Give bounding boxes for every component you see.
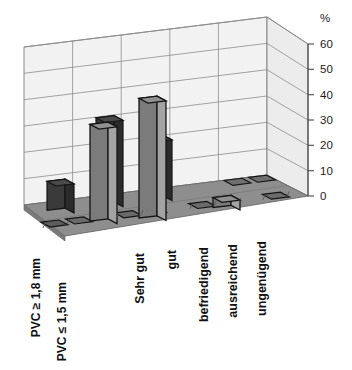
y-tick-40: 40: [320, 89, 333, 101]
right-wall: [267, 17, 308, 196]
category-label-gut: gut: [165, 249, 179, 269]
bar-back-sehr-gut: [47, 179, 74, 213]
y-tick-20: 20: [320, 139, 333, 151]
series-axis-labels: PVC ≥ 1,8 mm PVC ≤ 1,5 mm: [29, 258, 69, 361]
category-label-ausreichend: ausreichend: [226, 244, 240, 318]
series-label-pvc-ge-18: PVC ≥ 1,8 mm: [29, 258, 43, 337]
bar-chart-3d: % 60 50 40 30 20 10 0: [0, 0, 352, 370]
category-label-sehr-gut: Sehr gut: [133, 252, 147, 304]
y-axis: % 60 50 40 30 20 10 0: [308, 12, 333, 202]
bar-front-gut: [90, 122, 117, 223]
category-label-ungenuegend: ungenügend: [255, 241, 269, 316]
y-tick-10: 10: [320, 165, 333, 177]
y-tick-60: 60: [320, 38, 333, 50]
category-axis-labels: Sehr gut gut befriedigend ausreichend un…: [133, 241, 269, 322]
axis-unit-percent: %: [320, 12, 330, 24]
y-tick-30: 30: [320, 114, 333, 126]
series-label-pvc-le-15: PVC ≤ 1,5 mm: [55, 282, 69, 361]
category-label-befriedigend: befriedigend: [197, 247, 211, 322]
y-tick-50: 50: [320, 63, 333, 75]
y-tick-0: 0: [320, 190, 326, 202]
bar-front-befriedigend: [139, 96, 166, 220]
chart-container: % 60 50 40 30 20 10 0: [0, 0, 352, 370]
